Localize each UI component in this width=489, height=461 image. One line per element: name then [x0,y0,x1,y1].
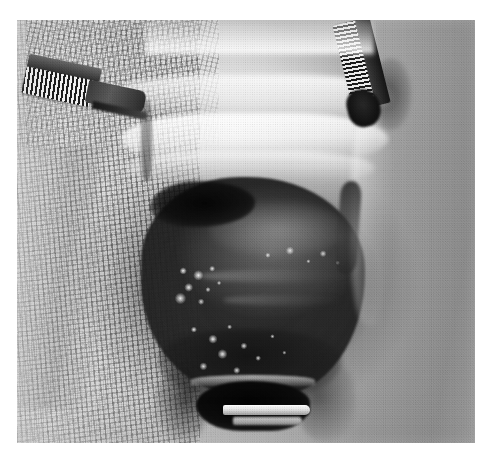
instrument-right-shaft-shadow [355,20,391,106]
mass-surface-crease-lower [223,295,347,305]
retracted-tissue-band-upper [109,75,393,117]
instrument-left-shaft-shadow [26,53,102,82]
retractor-blade-reflective-edge [223,405,310,415]
retractor-shadow-left [154,367,209,443]
instrument-upper-right [320,20,404,136]
bottom-overexposure-wash [145,20,374,54]
mass-lower-shadow [159,329,342,401]
figure-root [0,0,489,461]
instrument-right-serrated-shaft [333,20,380,103]
gauze-drape-right-fold [17,147,99,409]
retractor-shadow-right [296,358,356,443]
gauze-drape-left [17,20,219,443]
fibrin-exudate-cluster-lower [182,316,301,384]
halftone-dot-pattern [17,20,475,443]
instrument-left-tip-edge [91,101,148,120]
fibrin-exudate-cluster-right [255,240,347,278]
gauze-drape-left-upper [26,20,218,155]
instrument-right-tip [344,86,385,130]
wound-edge-right [351,113,392,325]
retractor-rim [191,375,315,386]
retractor-blade-lower-edge [233,417,302,425]
retractor-blade-bottom [191,375,315,443]
retracted-tissue-band-lower [127,151,374,185]
tissue-seam-shadow [141,100,152,180]
fibrin-exudate-cluster-left [168,261,237,316]
wound-slit-right [334,180,361,274]
photo-base-tone [17,20,475,443]
gauze-drape-right [17,20,200,443]
central-tissue-mass [141,177,365,397]
mass-dark-notch [150,181,255,228]
photo-vignette [17,20,475,443]
instrument-upper-left [18,52,155,132]
instrument-left-tip [85,80,147,115]
surgical-photograph [17,20,475,443]
soft-focus-overlay [17,20,475,443]
film-grain-overlay [17,20,475,443]
mass-specular-highlight [209,202,346,257]
dark-blotch-upper-right [370,58,411,130]
mass-surface-crease-upper [200,270,351,283]
retracted-tissue-band-middle [122,113,388,164]
instrument-left-serrated-shaft [21,66,94,106]
retractor-cavity [196,381,310,431]
